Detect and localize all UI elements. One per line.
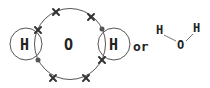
water-molecule-diagram: H O H or H O H	[0, 0, 210, 88]
or-label: or	[133, 39, 149, 54]
bond-line-right	[186, 34, 193, 41]
atom-label-o: O	[64, 36, 73, 54]
atom-label-h-right: H	[109, 36, 118, 54]
formula-h-right: H	[193, 21, 200, 35]
formula-o: O	[177, 38, 184, 52]
dot-icon	[100, 27, 105, 32]
structural-formula: H O H	[156, 21, 200, 52]
dot-icon	[36, 58, 41, 63]
cross-icon	[99, 57, 105, 63]
atom-label-h-left: H	[20, 36, 29, 54]
bond-line-left	[164, 35, 176, 41]
cross-icon	[50, 75, 56, 81]
formula-h-left: H	[156, 23, 163, 37]
